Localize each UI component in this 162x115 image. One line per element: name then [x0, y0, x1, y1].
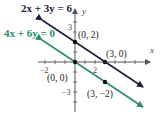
point-label-3-neg2: (3, −2): [87, 89, 113, 100]
point-label-0-2: (0, 2): [78, 30, 99, 41]
point-0-2: [73, 40, 77, 44]
equation-label-2: 4x + 6y = 0: [4, 27, 56, 39]
equation-label-1: 2x + 3y = 6: [21, 2, 73, 14]
point-label-3-0: (3, 0): [106, 49, 127, 60]
tick-label-y-3: 3: [68, 23, 72, 32]
point-0-0: [73, 60, 77, 64]
point-3-0: [103, 60, 107, 64]
point-label-0-0: (0, 0): [47, 73, 68, 84]
point-3-neg2: [103, 80, 107, 84]
tick-label-x-2: 2: [93, 66, 97, 75]
tick-label-y-neg3: −3: [62, 88, 71, 97]
x-axis: [38, 60, 150, 64]
graph-figure: 2x + 3y = 6 4x + 6y = 0 y x −2 2 3 −3 (0…: [0, 0, 162, 115]
y-axis-label: y: [81, 6, 86, 16]
x-axis-label: x: [149, 45, 154, 55]
